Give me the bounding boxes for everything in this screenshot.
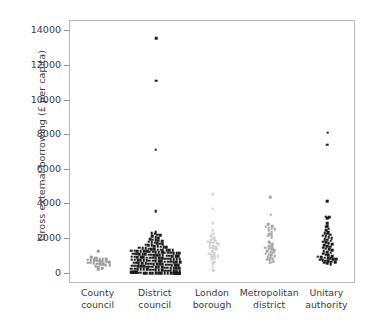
data-point [155,37,158,40]
data-point [264,226,267,229]
data-point [218,243,221,246]
data-point [267,223,270,226]
plot-area [69,20,355,283]
data-point [97,250,100,253]
data-point [153,245,156,248]
data-point [270,227,273,230]
data-point [212,207,215,210]
x-tick-label: Metropolitandistrict [237,287,302,310]
data-point [215,248,218,251]
y-tick-label: 12000 [1,60,61,70]
dot-plot-figure: Gross external borrowing (£ per capita) … [0,0,371,323]
data-point [138,246,141,249]
data-point [212,269,215,272]
x-tick-label: Londonborough [179,287,244,310]
data-point [327,227,330,230]
data-point [151,272,154,275]
data-point [211,265,214,268]
data-point [269,262,272,265]
data-point [108,261,111,264]
data-point [322,252,325,255]
y-tick-label: 14000 [1,25,61,35]
data-point [155,272,158,275]
x-tick-label: Countycouncil [65,287,130,310]
data-point [211,222,214,225]
data-point [274,228,277,231]
data-point [264,246,267,249]
data-point [155,79,158,82]
data-point [326,262,329,265]
data-point [154,210,157,213]
data-point [267,234,270,237]
data-point [97,268,100,271]
data-point [147,244,150,247]
x-tick-label: Districtcouncil [122,287,187,310]
data-point [212,262,215,265]
data-point [154,149,157,152]
y-tick-label: 8000 [1,129,61,139]
data-point [108,264,111,267]
data-point [142,268,145,271]
data-point [326,131,329,134]
x-axis-tick-group: CountycouncilDistrictcouncilLondonboroug… [69,287,355,321]
data-point [269,213,272,216]
data-point [104,264,107,267]
data-point [269,196,272,199]
data-point [272,260,275,263]
data-point [326,143,329,146]
data-point [216,255,219,258]
y-tick-label: 10000 [1,95,61,105]
data-point [334,261,337,264]
data-point [139,272,142,275]
data-point [331,243,334,246]
data-point [329,263,332,266]
y-tick-label: 4000 [1,198,61,208]
y-tick-label: 0 [1,268,61,278]
data-point [145,272,148,275]
data-point [177,272,180,275]
y-tick-label: 6000 [1,164,61,174]
data-point [210,235,213,238]
data-point [268,241,271,244]
x-tick-label: Unitaryauthority [294,287,359,310]
data-point [329,252,332,255]
data-point [101,267,104,270]
y-tick-label: 2000 [1,233,61,243]
data-point [212,233,215,236]
data-point [213,257,216,260]
data-point [211,229,214,232]
data-point [160,272,163,275]
data-point [326,200,329,203]
data-point [151,235,154,238]
data-point [326,217,329,220]
data-point [211,193,214,196]
data-point [271,236,274,239]
